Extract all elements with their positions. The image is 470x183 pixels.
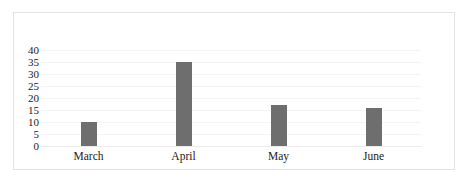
x-axis-baseline <box>41 146 421 147</box>
x-tick-label-may: May <box>239 149 319 163</box>
y-tick-label: 25 <box>14 81 39 92</box>
chart-plot-wrapper: 0510152025303540 MarchAprilMayJune <box>14 13 456 171</box>
y-tick-label: 30 <box>14 69 39 80</box>
y-tick-label: 20 <box>14 93 39 104</box>
x-tick-label-april: April <box>144 149 224 163</box>
x-tick-label-june: June <box>334 149 414 163</box>
y-axis-tick-labels: 0510152025303540 <box>14 50 39 146</box>
y-tick-label: 10 <box>14 117 39 128</box>
y-tick-label: 5 <box>14 129 39 140</box>
y-tick-label: 40 <box>14 45 39 56</box>
bar-may <box>271 105 287 146</box>
y-tick-label: 0 <box>14 141 39 152</box>
y-tick-label: 15 <box>14 105 39 116</box>
x-tick-label-march: March <box>49 149 129 163</box>
y-tick-label: 35 <box>14 57 39 68</box>
bar-series <box>41 50 421 146</box>
bar-april <box>176 62 192 146</box>
bar-june <box>366 108 382 146</box>
bar-march <box>81 122 97 146</box>
chart-frame: 0510152025303540 MarchAprilMayJune <box>13 12 455 170</box>
x-axis-tick-labels: MarchAprilMayJune <box>41 149 421 169</box>
